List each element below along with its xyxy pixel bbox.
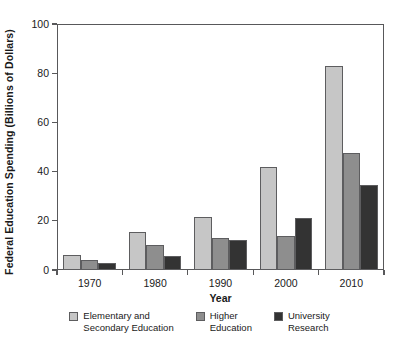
- x-tick-label: 2000: [256, 277, 316, 289]
- bar: [164, 256, 182, 270]
- y-axis-title: Federal Education Spending (Billions of …: [2, 22, 16, 282]
- y-tick-label: 40: [37, 164, 49, 179]
- legend-swatch: [196, 312, 205, 321]
- legend-label: Elementary and Secondary Education: [83, 310, 173, 333]
- bar: [81, 260, 99, 270]
- bar: [229, 240, 247, 270]
- x-tick-mark: [187, 270, 188, 275]
- x-tick-mark: [253, 270, 254, 275]
- bar: [343, 153, 361, 270]
- bar: [277, 236, 295, 270]
- x-tick-label: 1970: [60, 277, 120, 289]
- y-tick-mark: [52, 171, 57, 172]
- x-tick-mark: [318, 270, 319, 275]
- bar: [63, 255, 81, 270]
- y-tick-mark: [52, 122, 57, 123]
- bar: [98, 263, 116, 270]
- y-tick-label: 60: [37, 115, 49, 130]
- x-tick-label: 2010: [321, 277, 381, 289]
- bar-chart: Federal Education Spending (Billions of …: [0, 0, 399, 355]
- y-tick-mark: [52, 23, 57, 24]
- x-tick-mark: [383, 270, 384, 275]
- bar: [295, 218, 313, 270]
- y-tick-label: 100: [31, 17, 49, 32]
- legend-label: University Research: [288, 310, 330, 333]
- bar: [212, 238, 230, 270]
- x-tick-mark: [122, 270, 123, 275]
- y-tick-mark: [52, 73, 57, 74]
- x-tick-mark: [56, 270, 57, 275]
- x-tick-label: 1990: [191, 277, 251, 289]
- y-tick-label: 0: [43, 263, 49, 278]
- bar: [129, 232, 147, 270]
- bar: [260, 167, 278, 270]
- x-tick-label: 1980: [125, 277, 185, 289]
- y-tick-label: 20: [37, 213, 49, 228]
- x-axis-title: Year: [57, 292, 384, 304]
- y-tick-mark: [52, 220, 57, 221]
- bar: [360, 185, 378, 270]
- plot-frame-right: [383, 24, 384, 271]
- bar: [325, 66, 343, 270]
- legend-item: Higher Education: [196, 310, 252, 333]
- y-tick-label: 80: [37, 66, 49, 81]
- plot-frame-top: [57, 24, 384, 25]
- legend-label: Higher Education: [210, 310, 252, 333]
- legend: Elementary and Secondary EducationHigher…: [0, 310, 399, 333]
- legend-swatch: [69, 312, 78, 321]
- legend-item: Elementary and Secondary Education: [69, 310, 173, 333]
- legend-item: University Research: [274, 310, 330, 333]
- bar: [194, 217, 212, 270]
- bar: [146, 245, 164, 270]
- legend-swatch: [274, 312, 283, 321]
